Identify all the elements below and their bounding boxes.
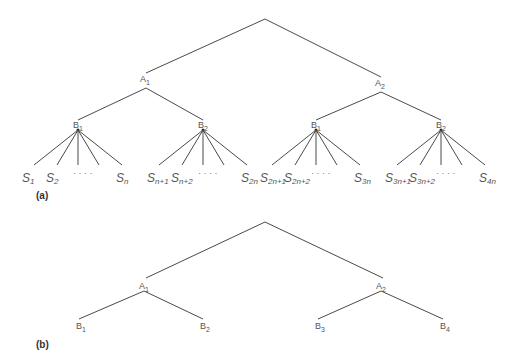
leaf-label: Sn [116,171,129,186]
node-b3: B3 [315,321,325,333]
tree-diagram: A1A2B1S1S2· · · ·SnB2Sn+1Sn+2· · · ·S2nB… [0,0,510,362]
leaf-label: S4n [479,171,496,186]
leaf-ellipsis: · · · · [198,168,218,178]
edge-leaf [182,130,203,165]
edge-leaf [295,130,316,165]
edge-leaf [441,130,462,165]
edge-leaf [316,130,337,165]
edge-leaf [159,130,203,165]
edge-leaf [316,130,360,165]
edge-leaf [78,130,99,165]
leaf-label: S2n [241,171,258,186]
edge-leaf [78,130,122,165]
edge-leaf [203,130,224,165]
edge-leaf [34,130,78,165]
leaf-label: S2 [46,171,59,186]
leaf-ellipsis: · · · · [73,168,93,178]
edge-leaf [441,130,485,165]
edge-b-leaf2 [144,291,203,319]
edge-root-b1 [146,222,265,278]
node-a1: A1 [140,74,150,86]
node-b4: B4 [440,321,450,333]
leaf-label: S3n+1 [385,171,411,186]
node-b2: B2 [200,321,210,333]
leaf-label: Sn+1 [147,171,169,186]
node-a2: A2 [375,78,385,90]
edge-leaf [57,130,78,165]
edge-root-a2 [265,19,381,77]
edge-a-b3 [316,92,381,120]
edge-a-b1 [78,88,146,120]
panel-a-label: (a) [36,190,48,201]
leaf-ellipsis: · · · · [311,168,331,178]
leaf-label: S3n [354,171,371,186]
edge-b-leaf3 [318,291,381,319]
edge-leaf [397,130,441,165]
edge-a-b2 [146,88,203,120]
leaf-ellipsis: · · · · [436,168,456,178]
edge-b-leaf4 [381,291,443,319]
edge-root-b2 [265,222,383,278]
edge-leaf [272,130,316,165]
node-b1: B1 [76,321,86,333]
leaf-label: S1 [22,171,34,186]
leaf-label: Sn+2 [171,171,193,186]
edge-b-leaf1 [79,291,144,319]
leaf-label: S3n+2 [409,171,436,186]
panel-b-label: (b) [36,339,49,350]
edge-a-b4 [381,92,441,120]
edge-leaf [203,130,247,165]
edge-leaf [420,130,441,165]
leaf-label: S2n+1 [260,171,286,186]
leaf-label: S2n+2 [284,171,311,186]
edge-root-a1 [146,19,265,73]
